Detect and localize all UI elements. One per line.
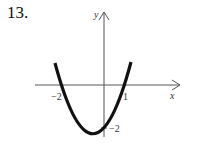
x-tick-1: 1 xyxy=(123,91,128,102)
x-tick-neg2: −2 xyxy=(51,91,62,102)
y-axis-label: y xyxy=(93,9,99,20)
y-tick-neg2: −2 xyxy=(109,123,120,134)
x-axis-label: x xyxy=(169,90,175,101)
parabola-graph: y x −2 1 −2 xyxy=(0,0,219,147)
